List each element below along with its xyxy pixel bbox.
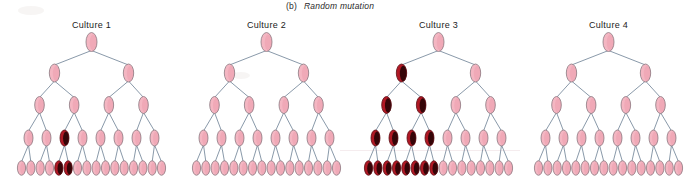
division-branch [595,145,600,162]
normal-cell [248,161,256,176]
normal-cell [192,161,200,176]
mutant-cell [411,161,419,176]
normal-cell [139,97,149,114]
normal-cell [544,161,552,176]
normal-cell [553,161,561,176]
division-branch [137,113,144,132]
normal-cell [621,97,631,114]
mutant-cell [364,161,372,176]
normal-cell [239,161,247,176]
division-branch [591,113,599,132]
division-branch [197,145,204,162]
division-branch [276,113,284,132]
normal-cell [211,161,219,176]
division-branch [230,51,267,66]
normal-cell [271,130,280,146]
normal-cell [451,97,461,114]
normal-cell [261,33,272,52]
normal-cell [470,64,480,82]
division-branch [376,113,387,132]
division-branch [421,113,429,132]
division-branch [572,81,592,98]
normal-cell [566,64,576,82]
lineage-tree [351,0,526,194]
culture-panel-2: Culture 2 [179,0,354,194]
division-branch [609,51,646,66]
division-branch [304,81,319,98]
normal-cell [69,97,79,114]
normal-cell [267,161,275,176]
normal-cell [504,161,512,176]
normal-cell [631,130,640,146]
normal-cell [148,161,156,176]
division-branch [222,145,225,162]
normal-cell [129,161,137,176]
division-branch [155,145,162,162]
division-branch [456,81,476,98]
normal-cell [486,97,496,114]
normal-cell [665,161,673,176]
division-branch [40,113,47,132]
division-branch [29,145,31,162]
normal-cell [640,64,650,82]
division-branch [499,145,501,162]
mutant-cell [383,161,391,176]
division-branch [22,145,29,162]
normal-cell [461,130,470,146]
division-branch [96,145,100,162]
division-branch [557,81,572,98]
mutant-cell [389,130,398,146]
division-branch [626,81,646,98]
division-branch [626,113,636,132]
normal-cell [433,33,444,52]
division-branch [546,113,557,132]
normal-cell [217,130,226,146]
mutant-cell [416,97,426,114]
normal-cell [111,161,119,176]
normal-cell [667,130,676,146]
normal-cell [674,161,682,176]
division-branch [462,145,466,162]
normal-cell [276,161,284,176]
mutant-cell [420,161,428,176]
division-branch [502,145,509,162]
division-branch [55,51,92,66]
division-branch [651,145,654,162]
division-branch [240,145,244,162]
normal-cell [157,161,165,176]
division-branch [271,145,275,162]
division-branch [276,145,281,162]
division-branch [65,113,75,132]
division-branch [312,113,319,132]
division-branch [327,145,329,162]
division-branch [312,145,318,162]
normal-cell [202,161,210,176]
division-branch [394,145,397,162]
division-branch [129,81,144,98]
division-branch [484,113,491,132]
normal-cell [637,161,645,176]
normal-cell [534,161,542,176]
normal-cell [86,33,97,52]
normal-cell [314,97,324,114]
division-branch [101,113,109,132]
division-branch [152,145,154,162]
division-branch [466,145,472,162]
normal-cell [479,130,488,146]
lineage-tree-svg [179,0,354,194]
normal-cell [295,161,303,176]
division-branch [387,145,393,162]
division-branch [557,145,563,162]
mutant-cell [374,161,382,176]
division-branch [456,113,466,132]
division-branch [29,113,40,132]
division-branch [234,145,240,162]
normal-cell [45,161,53,176]
normal-cell [101,161,109,176]
division-branch [294,145,300,162]
normal-cell [150,130,159,146]
division-branch [387,113,394,132]
division-branch [119,145,125,162]
culture-panel-4: Culture 4 [521,0,696,194]
division-branch [249,113,257,132]
